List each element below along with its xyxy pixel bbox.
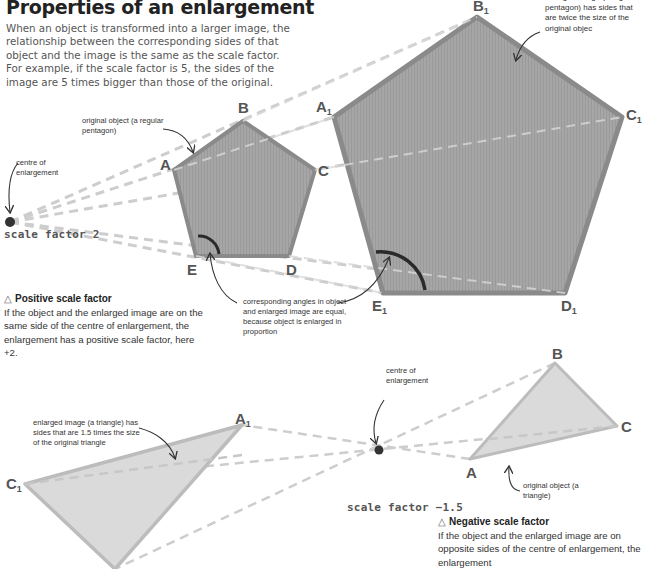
triangle-icon: △ <box>4 293 12 304</box>
negative-scale-factor-box: △Negative scale factor If the object and… <box>438 515 641 569</box>
centre-arrow-negative-icon <box>374 400 384 443</box>
vertex-label-neg-B: B <box>552 346 563 361</box>
centre-annotation-positive: centre of enlargement <box>16 158 76 178</box>
triangle-icon: △ <box>438 516 446 527</box>
vertex-label-neg-C1: C1 <box>6 476 22 497</box>
enlarged-triangle-annotation: enlarged image (a triangle) has sides th… <box>33 418 143 448</box>
positive-box-text: If the object and the enlarged image are… <box>4 306 209 360</box>
original-object-annotation: original object (a regular pentagon) <box>82 116 172 136</box>
vertex-label-E: E <box>187 262 197 277</box>
vertex-label-E1: E1 <box>372 298 387 319</box>
original-triangle-arrow-icon <box>509 467 520 491</box>
centre-annotation-negative: centre of enlargement <box>386 366 446 386</box>
scale-factor-negative-label: scale factor −1.5 <box>347 501 463 514</box>
vertex-label-C: C <box>318 163 329 178</box>
original-triangle-annotation: original object (a triangle) <box>523 481 583 501</box>
vertex-label-neg-A: A <box>466 465 477 480</box>
positive-scale-factor-box: △Positive scale factor If the object and… <box>4 292 209 360</box>
negative-box-heading: △Negative scale factor <box>438 515 641 529</box>
enlarged-pentagon-annotation: enlarged image (a regular pentagon) has … <box>545 0 645 34</box>
corresponding-angles-annotation: corresponding angles in object and enlar… <box>243 297 355 337</box>
vertex-label-B: B <box>238 100 249 115</box>
vertex-label-D1: D1 <box>561 298 577 319</box>
scale-factor-positive-label: scale factor 2 <box>4 228 100 241</box>
vertex-label-neg-C: C <box>621 419 632 434</box>
vertex-label-A: A <box>160 157 171 172</box>
vertex-label-B1: B1 <box>473 0 489 19</box>
negative-box-text: If the object and the enlarged image are… <box>438 529 641 569</box>
vertex-label-neg-A1: A1 <box>235 411 251 432</box>
centre-dot-negative <box>375 446 384 455</box>
vertex-label-C1: C1 <box>626 107 642 128</box>
small-triangle <box>470 363 617 459</box>
centre-dot-positive <box>5 217 15 227</box>
vertex-label-D: D <box>286 262 297 277</box>
positive-box-heading: △Positive scale factor <box>4 292 209 306</box>
vertex-label-A1: A1 <box>316 99 332 120</box>
